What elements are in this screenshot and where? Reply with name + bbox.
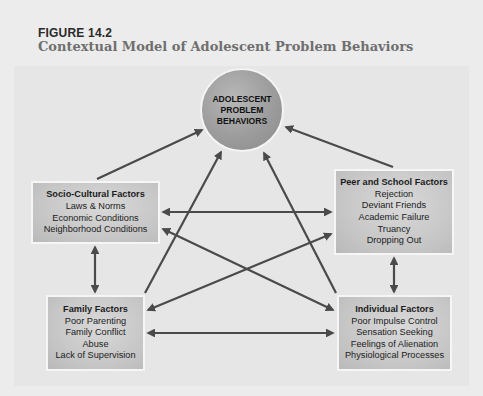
- node-heading: Family Factors: [63, 304, 128, 316]
- arrow-socio-to-center: [97, 130, 202, 179]
- node-heading: Socio-Cultural Factors: [46, 189, 145, 201]
- node-item: Deviant Friends: [362, 200, 426, 212]
- node-item: Laws & Norms: [66, 201, 126, 213]
- node-item: Truancy: [378, 224, 411, 236]
- node-peer-and-school-factors: Peer and School Factors Rejection Devian…: [334, 169, 454, 255]
- center-line-2: PROBLEM: [221, 105, 264, 116]
- center-line-3: BEHAVIORS: [217, 116, 267, 127]
- node-item: Poor Parenting: [65, 316, 126, 328]
- node-heading: Peer and School Factors: [340, 177, 448, 189]
- node-item: Poor Impulse Control: [351, 316, 437, 328]
- node-individual-factors: Individual Factors Poor Impulse Control …: [337, 295, 452, 371]
- center-node-adolescent-problem-behaviors: ADOLESCENT PROBLEM BEHAVIORS: [200, 68, 284, 152]
- node-item: Sensation Seeking: [356, 327, 433, 339]
- center-line-1: ADOLESCENT: [212, 94, 271, 105]
- node-item: Rejection: [375, 189, 413, 201]
- node-item: Academic Failure: [359, 212, 430, 224]
- arrow-individual-to-center: [264, 153, 336, 293]
- node-item: Family Conflict: [65, 327, 125, 339]
- node-item: Abuse: [82, 339, 108, 351]
- node-heading: Individual Factors: [355, 304, 434, 316]
- arrow-peer-to-center: [286, 127, 393, 167]
- node-family-factors: Family Factors Poor Parenting Family Con…: [46, 295, 145, 371]
- node-item: Feelings of Alienation: [351, 339, 438, 351]
- node-item: Neighborhood Conditions: [44, 224, 148, 236]
- node-item: Lack of Supervision: [55, 350, 135, 362]
- node-item: Dropping Out: [367, 235, 422, 247]
- node-socio-cultural-factors: Socio-Cultural Factors Laws & Norms Econ…: [31, 181, 160, 244]
- arrow-family-peer: [148, 234, 331, 310]
- node-item: Physiological Processes: [345, 350, 444, 362]
- node-item: Economic Conditions: [52, 213, 138, 225]
